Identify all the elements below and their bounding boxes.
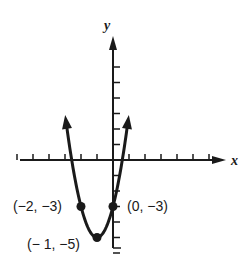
y-axis-arrow-icon — [109, 36, 117, 50]
data-point — [109, 202, 118, 211]
axes — [20, 36, 226, 248]
x-axis-arrow-icon — [212, 156, 226, 164]
y-axis-label: y — [102, 18, 111, 33]
data-point — [77, 202, 86, 211]
x-axis-label: x — [230, 153, 238, 168]
curve-arrowheads — [62, 115, 132, 130]
parabola-chart: y x (−2, −3) (0, −3) (− 1, −5) — [0, 0, 249, 272]
parabola-curve — [66, 121, 128, 238]
right-curve-arrow-icon — [122, 115, 132, 130]
left-curve-arrow-icon — [62, 115, 72, 130]
point-label-neg2-neg3: (−2, −3) — [13, 198, 62, 214]
labeled-points — [77, 202, 118, 242]
point-label-vertex: (− 1, −5) — [27, 236, 80, 252]
data-point — [93, 233, 102, 242]
point-label-0-neg3: (0, −3) — [127, 198, 168, 214]
